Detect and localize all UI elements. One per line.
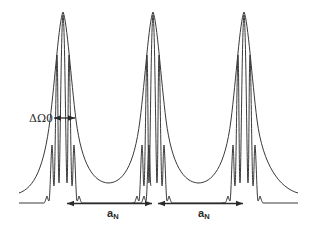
spectrum-diagram: ΔΩ0 aN aN (0, 0, 315, 232)
period-label-2: aN (198, 207, 210, 221)
comb-group-1 (19, 15, 151, 203)
period-label-2-sub: N (204, 212, 209, 221)
comb-group-3 (222, 15, 298, 203)
period-label-1-sub: N (113, 212, 118, 221)
period-label-1: aN (107, 207, 119, 221)
linewidth-label-main: ΔΩ (29, 112, 46, 125)
linewidth-label-sub: 0 (46, 112, 53, 125)
comb-group-2 (132, 15, 225, 203)
linewidth-label: ΔΩ0 (29, 112, 53, 125)
